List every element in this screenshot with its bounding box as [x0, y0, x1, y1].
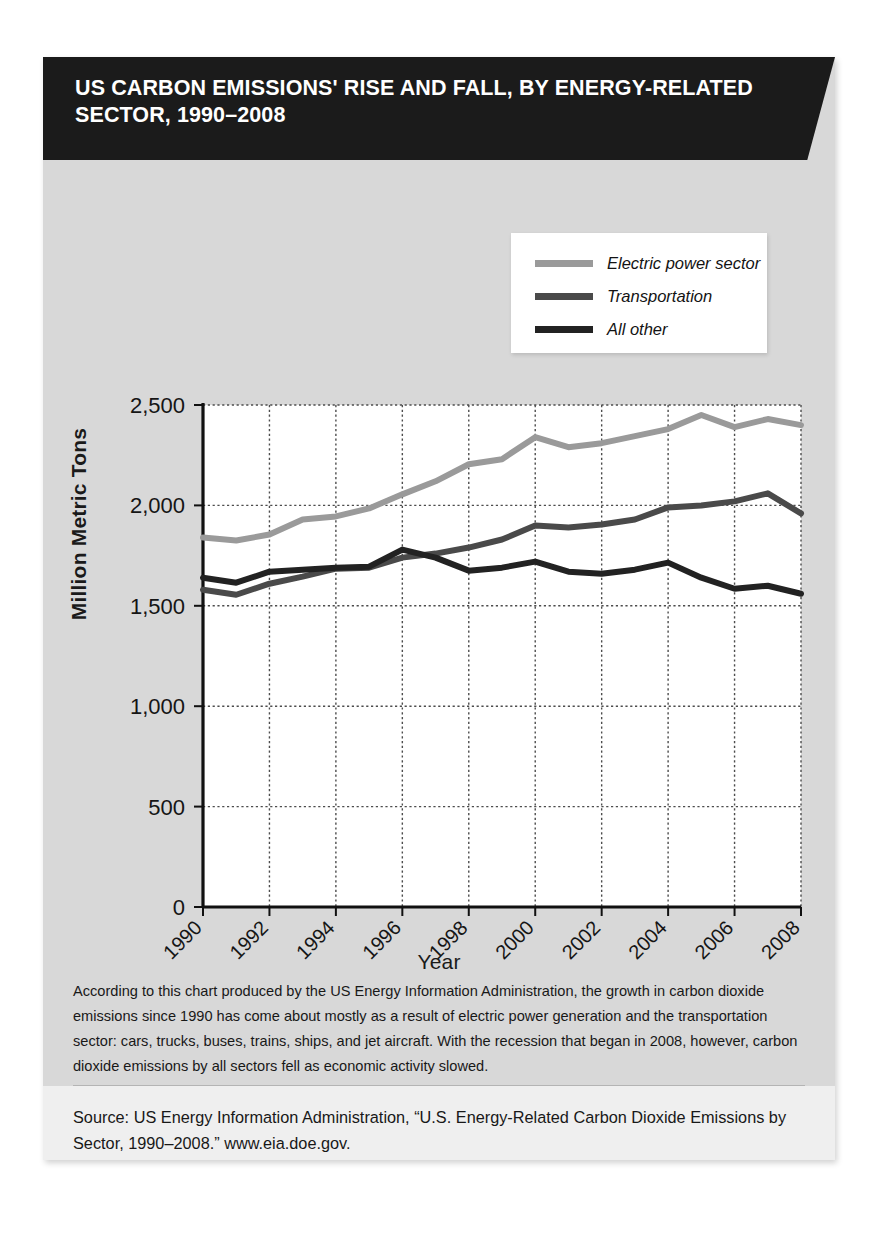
- figure-card: US CARBON EMISSIONS' RISE AND FALL, BY E…: [43, 57, 835, 1160]
- legend-label-transportation: Transportation: [607, 287, 712, 306]
- legend-swatch-icon-all-other: [535, 326, 593, 333]
- caption-block: According to this chart produced by the …: [43, 975, 835, 1085]
- svg-text:1,500: 1,500: [130, 594, 185, 619]
- source-text: Source: US Energy Information Administra…: [73, 1104, 795, 1156]
- legend-item-electric-power-sector: Electric power sector: [511, 247, 767, 280]
- y-axis-title: Million Metric Tons: [67, 404, 91, 644]
- svg-text:0: 0: [173, 895, 185, 920]
- caption-text: According to this chart produced by the …: [73, 979, 801, 1079]
- legend-item-transportation: Transportation: [511, 280, 767, 313]
- figure-page: US CARBON EMISSIONS' RISE AND FALL, BY E…: [0, 0, 882, 1236]
- x-axis-title: Year: [43, 950, 835, 974]
- legend-swatch-icon-transportation: [535, 293, 593, 300]
- chart-area: 05001,0001,5002,0002,5001990199219941996…: [43, 160, 835, 975]
- svg-text:2,000: 2,000: [130, 493, 185, 518]
- svg-text:1,000: 1,000: [130, 694, 185, 719]
- legend-label-all-other: All other: [607, 320, 668, 339]
- chart-legend: Electric power sector Transportation All…: [511, 233, 767, 353]
- legend-item-all-other: All other: [511, 313, 767, 346]
- source-block: Source: US Energy Information Administra…: [43, 1086, 835, 1160]
- svg-text:500: 500: [148, 795, 185, 820]
- legend-label-electric: Electric power sector: [607, 254, 760, 273]
- title-banner: US CARBON EMISSIONS' RISE AND FALL, BY E…: [43, 57, 835, 160]
- chart-title: US CARBON EMISSIONS' RISE AND FALL, BY E…: [75, 75, 775, 129]
- svg-text:2,500: 2,500: [130, 393, 185, 418]
- legend-swatch-icon-electric: [535, 260, 593, 267]
